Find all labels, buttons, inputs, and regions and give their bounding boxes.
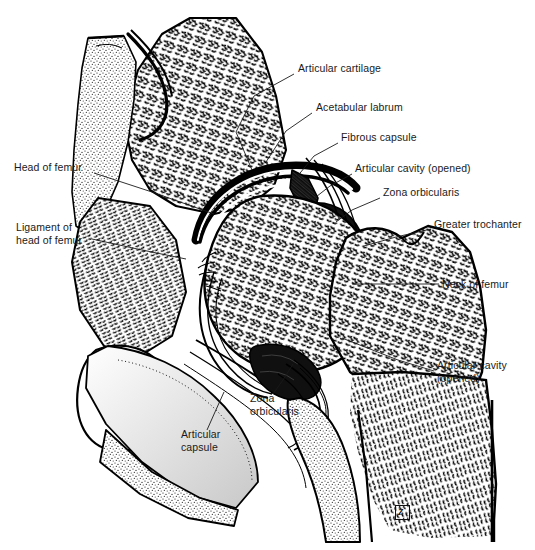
label-articular-cavity-lower: Articular cavity (opened) [437,359,507,384]
label-ligament-of-head-line2: head of femur [16,234,82,247]
label-fibrous-capsule: Fibrous capsule [341,131,417,144]
label-zona-orbicularis-lower-line2: orbicularis [250,405,299,418]
label-ligament-of-head-line1: Ligament of [16,221,82,234]
label-head-of-femur: Head of femur [14,161,82,174]
label-articular-cavity-lower-line2: (opened) [437,372,507,385]
label-zona-orbicularis-upper: Zona orbicularis [383,186,459,199]
label-articular-capsule-line1: Articular [181,428,220,441]
label-zona-orbicularis-lower-line1: Zona [250,392,299,405]
label-articular-cavity-lower-line1: Articular cavity [437,359,507,372]
hip-joint-figure: Articular cartilage Acetabular labrum Fi… [0,0,535,550]
artist-monogram-icon: Z [395,505,410,520]
hip-joint-illustration [0,0,535,550]
label-articular-cavity-upper: Articular cavity (opened) [355,162,471,175]
artist-monogram-glyph: Z [398,508,404,517]
label-greater-trochanter: Greater trochanter [434,218,522,231]
label-acetabular-labrum: Acetabular labrum [316,101,403,114]
label-neck-of-femur: Neck of femur [442,278,509,291]
label-ligament-of-head-of-femur: Ligament of head of femur [16,221,82,246]
label-articular-capsule-line2: capsule [181,441,220,454]
label-zona-orbicularis-lower: Zona orbicularis [250,392,299,417]
label-articular-cartilage: Articular cartilage [298,62,381,75]
label-articular-capsule: Articular capsule [181,428,220,453]
